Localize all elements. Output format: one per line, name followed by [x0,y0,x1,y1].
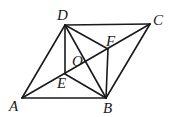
label-e: E [56,75,66,91]
label-c: C [153,12,164,28]
geometry-diagram: D C F O E A B [0,0,175,117]
label-o: O [72,53,83,69]
label-f: F [105,33,116,49]
label-b: B [103,100,112,116]
label-d: D [56,7,68,23]
segments [22,24,150,98]
segment-bf [106,49,108,98]
segment-cd [65,24,150,25]
label-a: A [8,98,19,114]
